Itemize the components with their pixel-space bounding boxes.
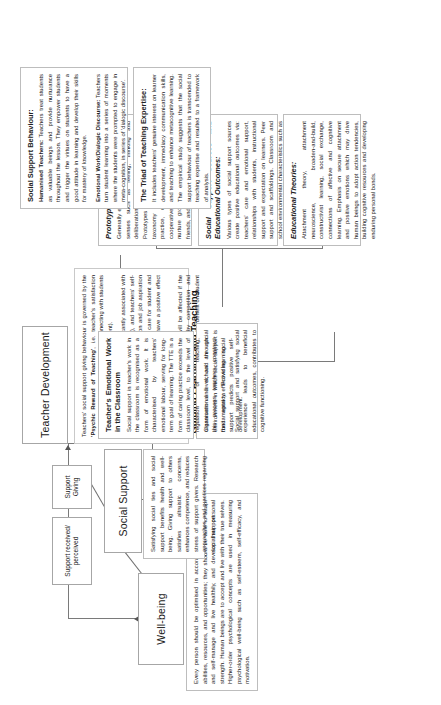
emotional-work-title: Teacher's Emotional Work in the Classroo… bbox=[104, 338, 123, 432]
educational-theories-title: Educational Theories: bbox=[289, 121, 298, 239]
ssb-p2: Emotional Work/Dialogic Discourse: Teach… bbox=[94, 74, 128, 202]
ew-p1: Social support in teacher's work in the … bbox=[125, 338, 245, 432]
panel-educational-theories: Educational Theories: Attachment theory,… bbox=[283, 114, 361, 246]
connector-sources-h bbox=[334, 332, 335, 362]
ss-p1: Satisfying social ties and social suppor… bbox=[149, 456, 218, 552]
ssb-p1: Humanised Teachers: Teachers treat stude… bbox=[37, 74, 88, 202]
node-support-received-label: Support received/ perceived bbox=[64, 525, 80, 577]
connector-meta-down bbox=[222, 248, 322, 249]
node-teacher-development-label: Teacher Development bbox=[39, 332, 51, 438]
panel-triad-expertise: The Triad of Teaching Expertise: It incl… bbox=[133, 67, 211, 209]
node-teacher-development[interactable]: Teacher Development bbox=[22, 326, 68, 444]
connector-meta-right bbox=[222, 249, 223, 307]
connector-vert-left bbox=[68, 618, 138, 619]
diagram-canvas: Teacher Development Well-being Social Su… bbox=[0, 0, 441, 705]
triad-title: The Triad of Teaching Expertise: bbox=[139, 74, 148, 202]
node-support-giving-label: Support Giving bbox=[64, 475, 80, 498]
tt-p1: It includes teachers' genuine interest o… bbox=[150, 74, 210, 202]
et-p1: Attachment theory, attachment neuroscien… bbox=[300, 121, 377, 239]
arrow-to-teacher-development bbox=[65, 445, 71, 450]
node-well-being[interactable]: Well-being bbox=[138, 573, 184, 665]
node-support-giving[interactable]: Support Giving bbox=[52, 465, 92, 509]
connector-meta-up bbox=[156, 248, 222, 249]
node-social-support[interactable]: Social Support bbox=[104, 449, 142, 553]
panel-social-support-text: Satisfying social ties and social suppor… bbox=[143, 449, 205, 559]
node-well-being-label: Well-being bbox=[155, 593, 167, 644]
node-social-support-label: Social Support bbox=[117, 465, 129, 536]
panel-emotional-work: Teacher's Emotional Work in the Classroo… bbox=[98, 331, 194, 439]
node-support-received[interactable]: Support received/ perceived bbox=[52, 517, 92, 585]
ssb-title: Social Support Behaviour: bbox=[26, 74, 35, 202]
panel-social-support-behaviour: Social Support Behaviour: Humanised Teac… bbox=[20, 67, 128, 209]
